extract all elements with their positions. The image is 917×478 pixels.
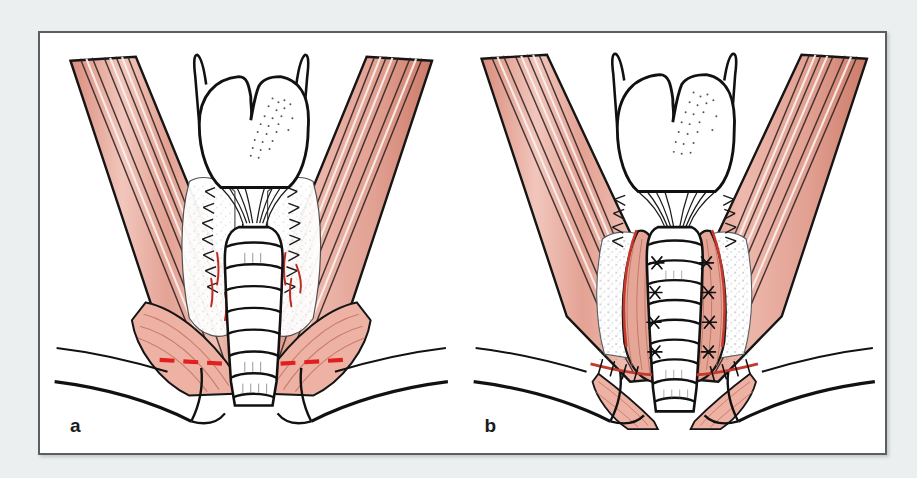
scene-a: [55, 55, 448, 423]
panel-a-label: a: [70, 415, 81, 437]
strap-muscle-stump-left: [592, 374, 657, 429]
panel-b-illustration: [463, 33, 886, 453]
trachea: [646, 227, 702, 411]
strap-muscle-stump-right: [690, 374, 755, 429]
cricothyroid-membrane: [638, 191, 715, 227]
panel-b: b: [463, 33, 886, 453]
panel-a-illustration: [40, 33, 463, 453]
panel-b-label: b: [485, 415, 497, 437]
figure-plate: a: [38, 31, 887, 455]
clavicle-right: [311, 382, 448, 422]
panel-a: a: [40, 33, 463, 453]
trachea: [225, 227, 283, 405]
sternal-notch: [191, 413, 225, 423]
scene-b: [473, 54, 874, 429]
thyroid-cartilage: [612, 54, 736, 227]
clavicle-right: [738, 382, 875, 422]
